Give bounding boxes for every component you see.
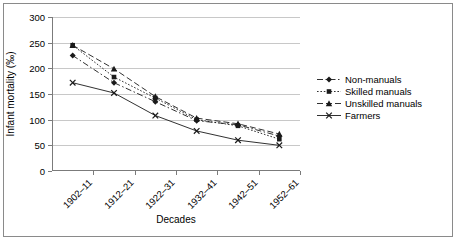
y-tick-label: 0 <box>40 166 45 177</box>
plot-area: 050100150200250300 1902–111912–211922–31… <box>52 17 300 171</box>
y-tick-mark <box>48 171 52 172</box>
legend-label: Unskilled manuals <box>345 98 422 109</box>
legend-key-triangle-icon <box>316 98 342 109</box>
data-point-marker <box>70 80 76 86</box>
data-point-marker <box>70 53 76 59</box>
series-line <box>73 45 280 134</box>
y-tick-label: 250 <box>29 37 45 48</box>
x-tick-label: 1942–51 <box>226 177 260 211</box>
legend-item[interactable]: Skilled manuals <box>316 86 422 97</box>
series-line <box>73 83 280 146</box>
x-tick-label: 1912–21 <box>102 177 136 211</box>
chart-legend: Non-manualsSkilled manualsUnskilled manu… <box>316 74 422 122</box>
legend-key-diamond-icon <box>316 74 342 85</box>
series-line <box>73 56 280 137</box>
x-tick-mark <box>300 171 301 175</box>
data-point-marker <box>111 80 117 86</box>
data-point-marker <box>277 137 282 142</box>
x-tick-mark <box>176 171 177 175</box>
y-axis-title: Infant mortality (‰) <box>4 17 18 171</box>
legend-label: Skilled manuals <box>345 86 412 97</box>
legend-key-graphic <box>316 98 342 109</box>
x-tick-mark <box>135 171 136 175</box>
x-tick-label: 1922–31 <box>143 177 177 211</box>
legend-key-cross-icon <box>316 110 342 121</box>
legend-key-square-icon <box>316 86 342 97</box>
y-tick-label: 100 <box>29 114 45 125</box>
series-line <box>73 45 280 139</box>
data-point-marker <box>326 77 332 83</box>
x-tick-label: 1902–11 <box>61 177 94 210</box>
x-tick-label: 1952–61 <box>267 177 301 211</box>
chart-figure: Infant mortality (‰) 050100150200250300 … <box>0 0 457 241</box>
data-point-marker <box>112 75 117 80</box>
x-tick-mark <box>93 171 94 175</box>
data-point-marker <box>111 90 117 96</box>
legend-key-graphic <box>316 110 342 121</box>
y-tick-label: 200 <box>29 63 45 74</box>
series-farmers <box>70 80 282 148</box>
y-tick-label: 300 <box>29 12 45 23</box>
x-tick-mark <box>259 171 260 175</box>
legend-label: Farmers <box>345 110 380 121</box>
y-tick-label: 150 <box>29 89 45 100</box>
legend-item[interactable]: Farmers <box>316 110 422 121</box>
data-point-marker <box>327 89 332 94</box>
x-tick-mark <box>217 171 218 175</box>
y-tick-label: 50 <box>34 140 45 151</box>
legend-item[interactable]: Unskilled manuals <box>316 98 422 109</box>
legend-key-graphic <box>316 74 342 85</box>
legend-label: Non-manuals <box>345 74 402 85</box>
x-tick-label: 1932–41 <box>185 177 219 211</box>
data-point-marker <box>111 66 117 72</box>
legend-key-graphic <box>316 86 342 97</box>
x-axis-title: Decades <box>52 214 300 225</box>
series-non-manuals <box>70 53 283 140</box>
data-point-marker <box>153 113 159 119</box>
legend-item[interactable]: Non-manuals <box>316 74 422 85</box>
series-layer <box>52 17 300 171</box>
